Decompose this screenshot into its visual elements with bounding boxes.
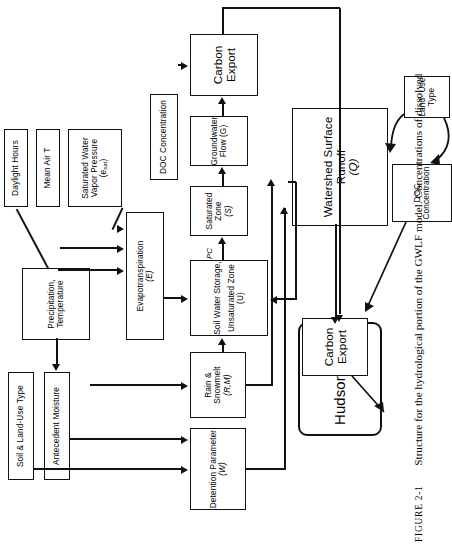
flowchart-canvas: Soil & Land-Use Type Antecedent Moisture… [0, 0, 400, 558]
edge-landuse-to-runoff [0, 0, 400, 558]
figure-caption-text: Structure for the hydrological portion o… [412, 74, 424, 466]
figure-number: FIGURE 2-1 [414, 485, 424, 542]
figure-caption: FIGURE 2-1 Structure for the hydrologica… [406, 0, 440, 558]
